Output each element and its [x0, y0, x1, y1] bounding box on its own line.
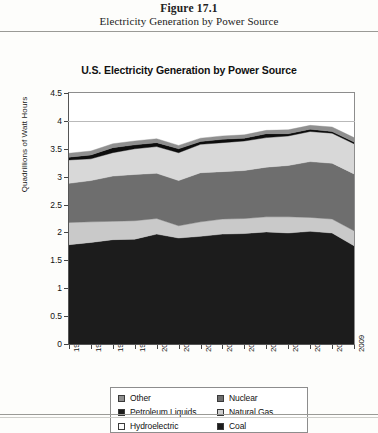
footer-divider [0, 414, 378, 415]
chart-container: U.S. Electricity Generation by Power Sou… [0, 32, 378, 412]
chart-legend: OtherPetroleum LiquidsHydroelectric Nucl… [110, 387, 308, 433]
legend-swatch-icon [118, 423, 125, 430]
x-tick-mark [91, 345, 92, 349]
figure-header: Figure 17.1 Electricity Generation by Po… [0, 0, 378, 28]
y-tick-label: 2.5 [18, 201, 62, 209]
y-tick-label: 4.5 [18, 89, 62, 97]
x-tick-mark [135, 345, 136, 349]
legend-item[interactable]: Nuclear [217, 391, 273, 405]
x-tick-mark [332, 345, 333, 349]
legend-label: Coal [229, 421, 246, 431]
legend-swatch-icon [118, 395, 125, 402]
x-tick-mark [113, 345, 114, 349]
y-tick-label: 2 [18, 228, 62, 236]
y-tick-label: 1.5 [18, 256, 62, 264]
x-tick-mark [310, 345, 311, 349]
legend-column-right: NuclearNatural GasCoal [217, 391, 273, 433]
stacked-area-series [69, 93, 354, 344]
x-tick-mark [288, 345, 289, 349]
x-tick-mark [244, 345, 245, 349]
legend-swatch-icon [217, 423, 224, 430]
y-tick-label: 3.5 [18, 145, 62, 153]
x-tick-mark [69, 345, 70, 349]
x-tick-mark [222, 345, 223, 349]
legend-label: Petroleum Liquids [130, 407, 196, 417]
legend-item[interactable]: Other [118, 391, 196, 405]
footer-divider-secondary [0, 417, 378, 418]
legend-swatch-icon [217, 395, 224, 402]
legend-label: Natural Gas [229, 407, 273, 417]
legend-label: Other [130, 393, 151, 403]
x-tick-mark [201, 345, 202, 349]
x-tick-mark [266, 345, 267, 349]
y-tick-label: 0 [18, 340, 62, 348]
x-tick-mark [354, 345, 355, 349]
area-band-coal [69, 231, 354, 344]
legend-item[interactable]: Coal [217, 419, 273, 433]
legend-label: Nuclear [229, 393, 258, 403]
y-tick-label: 1 [18, 284, 62, 292]
legend-item[interactable]: Hydroelectric [118, 419, 196, 433]
y-tick-label: 4 [18, 117, 62, 125]
x-tick-label: 2009 [357, 335, 366, 352]
x-tick-mark [157, 345, 158, 349]
figure-number: Figure 17.1 [0, 2, 378, 15]
y-tick-label: 3 [18, 173, 62, 181]
gridline-4 [68, 121, 355, 122]
legend-label: Hydroelectric [130, 421, 178, 431]
x-tick-mark [179, 345, 180, 349]
figure-caption: Electricity Generation by Power Source [0, 15, 378, 28]
chart-title: U.S. Electricity Generation by Power Sou… [0, 64, 378, 76]
legend-column-left: OtherPetroleum LiquidsHydroelectric [118, 391, 196, 433]
y-tick-label: 0.5 [18, 312, 62, 320]
plot-area [68, 92, 355, 345]
